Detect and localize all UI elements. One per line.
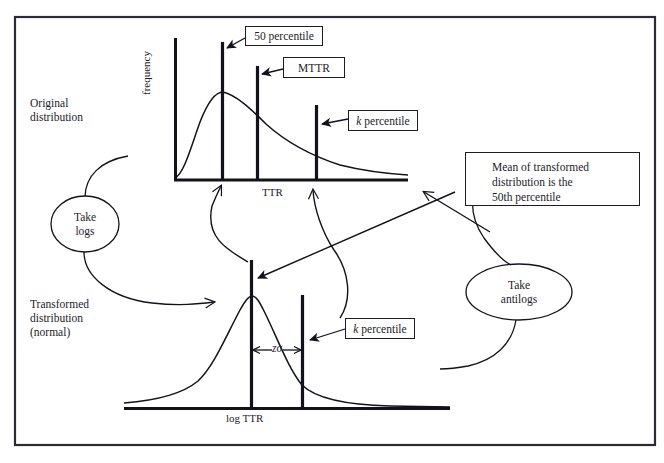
leader-k-percentile-upper [322,119,348,124]
take-logs-inflow-curve [85,156,128,196]
arrow-mean-to-upper-axis [211,186,248,262]
percentile-text-upper: percentile [361,115,409,127]
axis-label-log-ttr: log TTR [226,412,263,424]
callout-k-percentile-lower[interactable]: k percentile [345,318,415,339]
callout-50-percentile[interactable]: 50 percentile [245,26,323,46]
callout-mttr[interactable]: MTTR [283,57,345,78]
arrow-mean-box-to-lower-mean [258,192,455,278]
take-logs-label: Take logs [51,210,119,238]
upper-distribution-curve [175,92,408,178]
leader-50-percentile [227,38,245,48]
take-antilogs-label: Take antilogs [466,278,572,306]
label-transformed-distribution: Transformed distribution (normal) [30,297,140,339]
callout-mean-of-transformed[interactable]: Mean of transformed distribution is the … [465,152,640,206]
axis-label-ttr: TTR [262,186,283,198]
take-antilogs-outflow-curve [440,320,516,369]
z-sigma-annotation: zσ [272,342,282,354]
leader-mttr [262,69,283,74]
label-original-distribution: Original distribution [30,96,126,124]
diagram-canvas: Original distribution Transformed distri… [0,0,664,463]
percentile-text-lower: percentile [358,323,406,335]
axis-label-frequency: frequency [140,51,152,95]
lower-distribution-curve [124,296,450,407]
arrow-k-to-upper-axis [313,190,348,318]
callout-k-percentile-upper[interactable]: k percentile [348,110,418,131]
leader-k-percentile-lower [310,329,345,340]
